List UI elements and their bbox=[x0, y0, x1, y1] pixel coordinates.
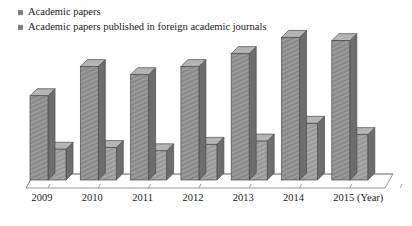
x-axis-label-2012: 2012 bbox=[171, 192, 215, 203]
x-axis-label-2010: 2010 bbox=[70, 192, 114, 203]
bar-group bbox=[30, 89, 73, 180]
bar-chart: Academic papers Academic papers publishe… bbox=[0, 0, 412, 226]
bar-front-face bbox=[131, 75, 149, 180]
bar-front-face bbox=[282, 37, 300, 180]
bar-front-face bbox=[332, 41, 350, 180]
bar-side-face bbox=[267, 134, 274, 180]
bar-front-face bbox=[181, 67, 199, 180]
bar-side-face bbox=[368, 128, 375, 180]
bar-front-face bbox=[30, 96, 48, 180]
bar-series-academic-papers bbox=[80, 60, 105, 180]
bar-series-academic-papers bbox=[131, 68, 156, 180]
bar-series-academic-papers bbox=[282, 30, 307, 180]
bar-group bbox=[131, 68, 174, 180]
x-axis-label-2013: 2013 bbox=[221, 192, 265, 203]
x-axis-tick bbox=[400, 184, 402, 188]
bar-series-academic-papers bbox=[30, 89, 55, 180]
bar-front-face bbox=[231, 54, 249, 180]
bar-group bbox=[332, 34, 375, 180]
x-axis-label-2014: 2014 bbox=[272, 192, 316, 203]
bar-side-face bbox=[199, 60, 206, 180]
bar-series-academic-papers bbox=[181, 60, 206, 180]
x-axis-unit-label: (Year) bbox=[357, 192, 383, 203]
bar-front-face bbox=[80, 67, 98, 180]
bar-group bbox=[282, 30, 325, 180]
bar-side-face bbox=[98, 60, 105, 180]
x-axis-labels: 2009201020112012201320142015 bbox=[0, 192, 412, 210]
bar-series-academic-papers bbox=[332, 34, 357, 180]
x-axis-label-2009: 2009 bbox=[20, 192, 64, 203]
bar-group bbox=[181, 60, 224, 180]
bar-side-face bbox=[249, 47, 256, 180]
bar-side-face bbox=[48, 89, 55, 180]
bar-side-face bbox=[318, 116, 325, 180]
bar-group bbox=[80, 60, 123, 180]
bar-side-face bbox=[149, 68, 156, 180]
bar-side-face bbox=[350, 34, 357, 180]
bar-side-face bbox=[300, 30, 307, 180]
x-axis-label-2011: 2011 bbox=[121, 192, 165, 203]
bar-group bbox=[231, 47, 274, 180]
bar-series-academic-papers bbox=[231, 47, 256, 180]
